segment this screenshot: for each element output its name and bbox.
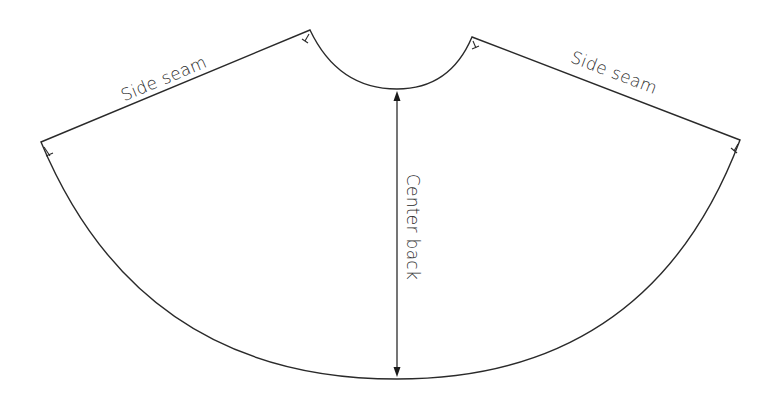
notch-left-waist — [302, 34, 309, 43]
right-side-seam-label: Side seam — [568, 47, 660, 98]
arrow-head-up-icon — [394, 91, 401, 101]
notch-right-waist — [472, 41, 479, 49]
arrow-head-down-icon — [394, 367, 401, 377]
center-back-label: Center back — [403, 174, 423, 280]
center-back-arrow — [394, 91, 401, 377]
left-side-seam-label: Side seam — [118, 52, 210, 106]
pattern-svg: Side seam Side seam Center back — [0, 0, 782, 399]
skirt-pattern-diagram: Side seam Side seam Center back — [0, 0, 782, 399]
